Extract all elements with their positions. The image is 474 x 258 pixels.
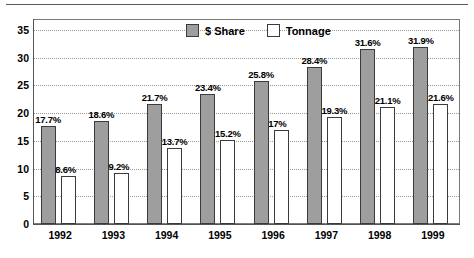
bar-value-label: 9.2% — [108, 161, 129, 172]
legend-swatch-share-icon — [186, 24, 199, 37]
x-axis-tick-label-1997: 1997 — [300, 229, 352, 241]
bar-tonnage-1995 — [220, 140, 235, 224]
bar-tonnage-1996 — [274, 130, 289, 224]
y-axis-tick-label: 10 — [0, 163, 29, 175]
bar-share-1999 — [413, 47, 428, 224]
bar-value-label: 17% — [268, 118, 286, 129]
y-axis-tick-label: 15 — [0, 135, 29, 147]
bar-value-label: 21.7% — [142, 92, 168, 103]
bar-value-label: 17.7% — [35, 114, 61, 125]
bar-value-label: 21.1% — [375, 95, 401, 106]
x-axis-tick-label-1999: 1999 — [407, 229, 459, 241]
x-axis-tick-label-1993: 1993 — [87, 229, 139, 241]
y-axis-line — [33, 19, 34, 225]
legend-swatch-tonnage-icon — [267, 24, 280, 37]
x-axis-line — [33, 224, 460, 225]
x-axis-tick-label-1996: 1996 — [247, 229, 299, 241]
legend-label-share: $ Share — [205, 25, 245, 37]
bar-tonnage-1992 — [61, 176, 76, 224]
bar-share-1992 — [41, 126, 56, 224]
legend-label-tonnage: Tonnage — [286, 25, 331, 37]
bar-share-1997 — [307, 67, 322, 224]
bar-value-label: 15.2% — [215, 128, 241, 139]
bar-tonnage-1998 — [380, 107, 395, 224]
bar-tonnage-1999 — [433, 104, 448, 224]
bar-share-1994 — [147, 104, 162, 224]
bar-value-label: 8.6% — [55, 164, 76, 175]
header-divider — [6, 4, 468, 5]
bar-value-label: 31.9% — [408, 35, 434, 46]
chart-legend: $ Share Tonnage — [186, 24, 331, 37]
bar-value-label: 21.6% — [428, 92, 454, 103]
bar-value-label: 18.6% — [88, 109, 114, 120]
bar-share-1995 — [200, 94, 215, 224]
y-axis-tick-label: 35 — [0, 24, 29, 36]
legend-item-tonnage: Tonnage — [267, 24, 331, 37]
bar-share-1996 — [254, 81, 269, 224]
y-axis-tick-label: 25 — [0, 79, 29, 91]
x-axis-tick-label-1994: 1994 — [141, 229, 193, 241]
gridline — [34, 85, 459, 86]
y-axis-tick-label: 30 — [0, 52, 29, 64]
bar-value-label: 28.4% — [301, 55, 327, 66]
bar-tonnage-1997 — [327, 117, 342, 224]
bar-chart-figure: 05101520253035 17.7%8.6%18.6%9.2%21.7%13… — [0, 0, 474, 258]
x-axis-tick-label-1995: 1995 — [194, 229, 246, 241]
bar-value-label: 25.8% — [248, 69, 274, 80]
bar-value-label: 19.3% — [321, 105, 347, 116]
bar-value-label: 23.4% — [195, 82, 221, 93]
gridline — [34, 58, 459, 59]
x-axis-tick-label-1992: 1992 — [34, 229, 86, 241]
x-axis-tick-label-1998: 1998 — [354, 229, 406, 241]
bar-value-label: 31.6% — [355, 37, 381, 48]
legend-item-share: $ Share — [186, 24, 245, 37]
bar-share-1998 — [360, 49, 375, 224]
y-axis-tick-label: 0 — [0, 218, 29, 230]
y-axis-tick-label: 20 — [0, 107, 29, 119]
bar-tonnage-1994 — [167, 148, 182, 224]
bar-value-label: 13.7% — [162, 136, 188, 147]
bar-share-1993 — [94, 121, 109, 224]
bar-tonnage-1993 — [114, 173, 129, 224]
y-axis-tick-label: 5 — [0, 190, 29, 202]
